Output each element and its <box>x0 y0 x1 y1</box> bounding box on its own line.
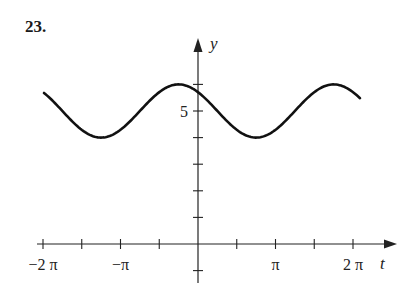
x-tick-label: π <box>271 256 279 273</box>
x-tick-label: −2 π <box>28 256 57 273</box>
sinusoid-chart: −2 π−ππ2 π5 y t <box>0 0 410 290</box>
x-axis-label: t <box>380 254 386 273</box>
x-tick-label: −π <box>112 256 129 273</box>
y-axis-label: y <box>208 34 218 53</box>
y-tick-label: 5 <box>180 103 188 120</box>
x-axis-arrow-icon <box>384 240 397 249</box>
y-axis-arrow-icon <box>194 38 203 52</box>
x-tick-label: 2 π <box>343 256 363 273</box>
